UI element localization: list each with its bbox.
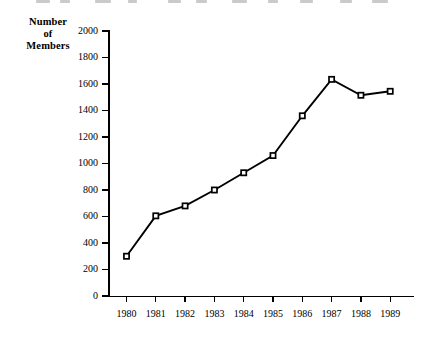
membership-line-chart: Number of Members 0200400600800100012001… [0,0,433,342]
plot-series-layer [0,0,433,342]
data-point-marker [358,93,363,98]
data-point-marker [153,213,158,218]
data-point-marker [212,187,217,192]
data-point-marker [300,113,305,118]
data-point-marker [124,254,129,259]
data-point-marker [241,170,246,175]
data-point-marker [270,153,275,158]
data-point-marker [329,77,334,82]
data-point-marker [388,89,393,94]
data-point-marker [183,203,188,208]
series-markers [124,77,393,259]
series-line-members [127,79,391,256]
